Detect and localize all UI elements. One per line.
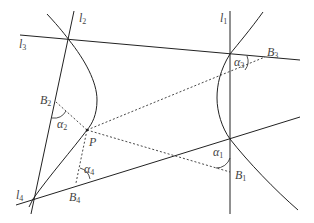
label-B4: B4	[69, 190, 80, 205]
label-alpha2: α2	[57, 117, 67, 132]
label-l1: l1	[220, 11, 227, 26]
label-B3: B3	[267, 45, 278, 60]
label-B1: B1	[235, 168, 246, 183]
label-P: P	[88, 135, 97, 149]
point-P	[86, 129, 89, 132]
label-l4: l4	[16, 188, 23, 203]
line-l3	[20, 35, 300, 60]
label-l2: l2	[79, 11, 86, 26]
diagram-canvas: l2 l1 l3 l4 B2 B3 B1 B4 P α1 α2 α3 α4	[0, 0, 314, 223]
hyperbola-right-branch	[217, 12, 298, 210]
label-alpha1: α1	[213, 145, 223, 160]
angle-arc-a3	[245, 56, 248, 70]
hyperbola-diagram: l2 l1 l3 l4 B2 B3 B1 B4 P α1 α2 α3 α4	[0, 0, 314, 223]
label-alpha4: α4	[84, 162, 94, 177]
dotted-P-B1	[87, 130, 230, 172]
hyperbola-left-branch	[29, 14, 97, 207]
label-B2: B2	[40, 93, 51, 108]
line-l2	[31, 11, 74, 214]
label-l3: l3	[19, 37, 26, 52]
label-alpha3: α3	[234, 55, 244, 70]
